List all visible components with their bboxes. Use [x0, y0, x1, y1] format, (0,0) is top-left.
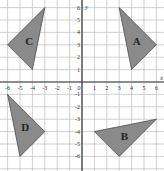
x-axis-label: x — [159, 74, 164, 82]
x-tick-label: 5 — [143, 85, 146, 91]
coordinate-grid: ABCD xy-6-5-4-3-2-10123456654321-1-2-3-4… — [0, 0, 164, 171]
y-tick-label: 6 — [77, 5, 80, 11]
x-tick-label: 2 — [105, 85, 108, 91]
y-tick-label: -5 — [75, 141, 80, 147]
x-tick-label: -6 — [5, 85, 10, 91]
x-tick-label: -3 — [42, 85, 47, 91]
y-tick-label: -1 — [75, 91, 80, 97]
y-tick-label: 2 — [77, 54, 80, 60]
triangle-label-b: B — [121, 130, 129, 142]
x-tick-label: -5 — [18, 85, 23, 91]
x-tick-label: -4 — [30, 85, 35, 91]
y-tick-label: 3 — [77, 42, 80, 48]
x-tick-label: 0 — [78, 85, 81, 91]
y-tick-label: -2 — [75, 104, 80, 110]
x-tick-label: -2 — [55, 85, 60, 91]
y-tick-label: -6 — [75, 153, 80, 159]
x-tick-label: -1 — [67, 85, 72, 91]
y-tick-label: 1 — [77, 67, 80, 73]
x-tick-label: 4 — [130, 85, 133, 91]
triangle-label-c: C — [25, 35, 33, 47]
y-tick-label: -4 — [75, 129, 80, 135]
y-tick-label: 4 — [77, 29, 80, 35]
y-tick-label: -3 — [75, 116, 80, 122]
x-tick-label: 3 — [118, 85, 121, 91]
y-tick-label: 5 — [77, 17, 80, 23]
triangle-label-a: A — [133, 35, 141, 47]
x-tick-label: 6 — [155, 85, 158, 91]
x-tick-label: 1 — [93, 85, 96, 91]
y-axis-label: y — [84, 3, 89, 11]
triangle-label-d: D — [21, 121, 29, 133]
